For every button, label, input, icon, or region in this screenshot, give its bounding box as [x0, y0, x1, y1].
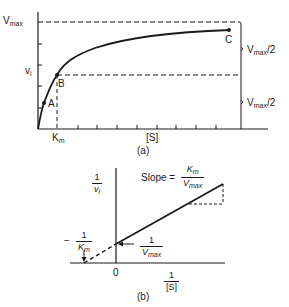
slope-den: Vmax [181, 177, 204, 190]
xi-den: Km [76, 241, 92, 254]
bl-sub: max [254, 102, 267, 109]
b-x-num: 1 [167, 271, 176, 281]
point-c-label: C [225, 35, 232, 45]
a-caption: (a) [137, 146, 149, 156]
xi-den-sub: m [84, 246, 90, 253]
bu-suffix: /2 [267, 44, 275, 55]
b-y-den: vi [92, 183, 102, 196]
bracket-lower-label: Vmax/2 [247, 98, 275, 111]
km-base: K [52, 132, 59, 143]
point-b-marker [55, 73, 59, 77]
vmax-label: Vmax [3, 16, 23, 29]
origin-label: 0 [113, 268, 119, 278]
a-x-axis-label: [S] [146, 133, 158, 143]
vi-sub: i [30, 70, 32, 77]
a-right-bracket [239, 22, 241, 129]
b-caption: (b) [137, 292, 149, 302]
yi-num: 1 [147, 236, 156, 246]
slope-num-sub: m [193, 168, 199, 175]
michaelis-menten-curve [38, 30, 230, 129]
vi-label: vi [25, 66, 32, 79]
slope-num: Km [185, 165, 201, 177]
point-b-label: B [58, 79, 65, 89]
x-intercept-label: 1 Km [76, 231, 92, 254]
yi-den-sub: max [148, 251, 161, 258]
neg-sign: − [64, 236, 70, 246]
slope-fraction: Km Vmax [181, 165, 204, 190]
b-y-axis-label: 1 vi [92, 173, 102, 196]
yi-den: Vmax [140, 246, 163, 259]
b-x-den: [S] [164, 281, 179, 292]
bu-base: V [247, 44, 254, 55]
point-c-marker [227, 28, 231, 32]
b-x-axis-label: 1 [S] [164, 271, 179, 292]
bu-sub: max [254, 49, 267, 56]
slope-den-sub: max [189, 182, 202, 189]
bl-suffix: /2 [267, 97, 275, 108]
vmax-base: V [3, 15, 10, 26]
point-a-label: A [48, 99, 55, 109]
bl-base: V [247, 97, 254, 108]
point-a-marker [42, 101, 46, 105]
km-label: Km [52, 133, 65, 146]
bracket-upper-label: Vmax/2 [247, 45, 275, 58]
km-sub: m [59, 137, 65, 144]
b-y-den-sub: i [99, 188, 101, 195]
y-intercept-label: 1 Vmax [140, 236, 163, 259]
b-y-num: 1 [93, 173, 102, 183]
slope-prefix: Slope = [141, 173, 175, 183]
xi-num: 1 [79, 231, 88, 241]
vmax-sub: max [10, 20, 23, 27]
lineweaver-burk-line [116, 184, 223, 244]
